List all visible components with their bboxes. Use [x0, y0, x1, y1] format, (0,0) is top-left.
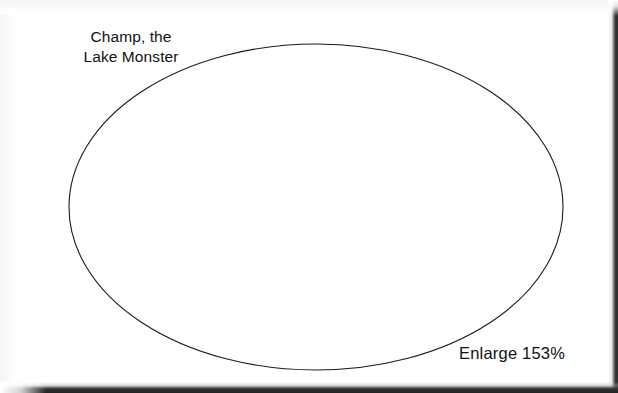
- scan-edge-bottom: [0, 382, 618, 393]
- scan-edge-right-top-fade: [608, 0, 618, 16]
- enlarge-instruction-label: Enlarge 153%: [459, 342, 565, 364]
- scan-edge-right: [608, 0, 618, 393]
- shape-title-label: Champ, the Lake Monster: [36, 27, 226, 67]
- scanned-page: Champ, the Lake Monster Enlarge 153%: [0, 0, 618, 393]
- ellipse-outline-shape: [69, 44, 563, 370]
- scan-edge-bottom-left-fade: [0, 382, 46, 393]
